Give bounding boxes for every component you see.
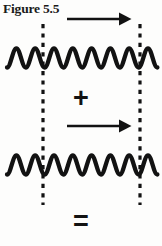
sine-wave-icon-top <box>7 49 157 68</box>
arrow-right-icon-bottom <box>67 119 132 132</box>
arrow-right-icon-top <box>67 12 132 25</box>
plus-operator: + <box>0 85 162 112</box>
equals-operator: = <box>0 208 162 235</box>
sine-wave-icon-bottom <box>7 156 157 175</box>
figure-container: Figure 5.5 + = <box>0 0 162 246</box>
